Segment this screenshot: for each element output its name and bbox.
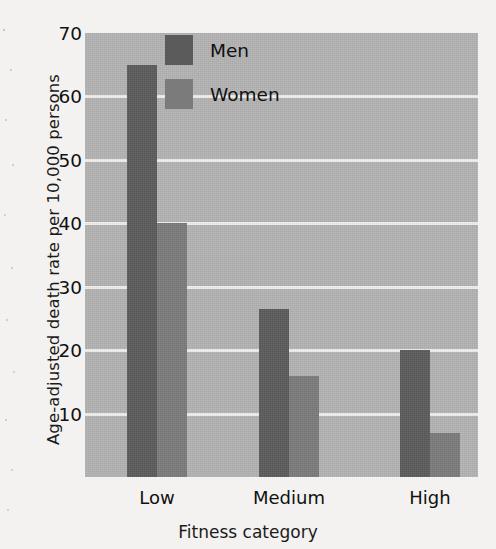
y-axis-tick: 40: [58, 213, 82, 234]
x-axis-tick-labels: LowMediumHigh: [85, 487, 478, 513]
bar-medium-men: [259, 309, 289, 477]
legend: Men Women: [165, 28, 280, 116]
y-axis-tick: 20: [58, 340, 82, 361]
bar-chart: Age-adjusted death rate per 10,000 perso…: [0, 0, 496, 549]
x-axis-label: Fitness category: [0, 522, 496, 542]
y-axis-tick: 30: [58, 276, 82, 297]
y-axis-tick: 50: [58, 149, 82, 170]
y-axis-tick: 10: [58, 403, 82, 424]
legend-item-men: Men: [165, 28, 280, 72]
y-axis-tick: 70: [58, 23, 82, 44]
legend-label-men: Men: [210, 40, 249, 61]
bar-medium-women: [289, 376, 319, 477]
bar-series-group: [85, 33, 478, 477]
bar-low-men: [127, 65, 157, 477]
legend-swatch-women-icon: [165, 79, 193, 109]
bar-high-women: [430, 433, 460, 477]
legend-item-women: Women: [165, 72, 280, 116]
plot-area: [85, 33, 478, 477]
x-axis-tick-low: Low: [139, 487, 174, 508]
y-axis-tick-labels: 70605040302010: [40, 33, 82, 477]
bar-high-men: [400, 350, 430, 477]
bar-low-women: [157, 223, 187, 477]
legend-label-women: Women: [210, 84, 280, 105]
legend-swatch-men-icon: [165, 35, 193, 65]
y-axis-tick: 60: [58, 86, 82, 107]
x-axis-tick-medium: Medium: [253, 487, 325, 508]
x-axis-tick-high: High: [409, 487, 450, 508]
